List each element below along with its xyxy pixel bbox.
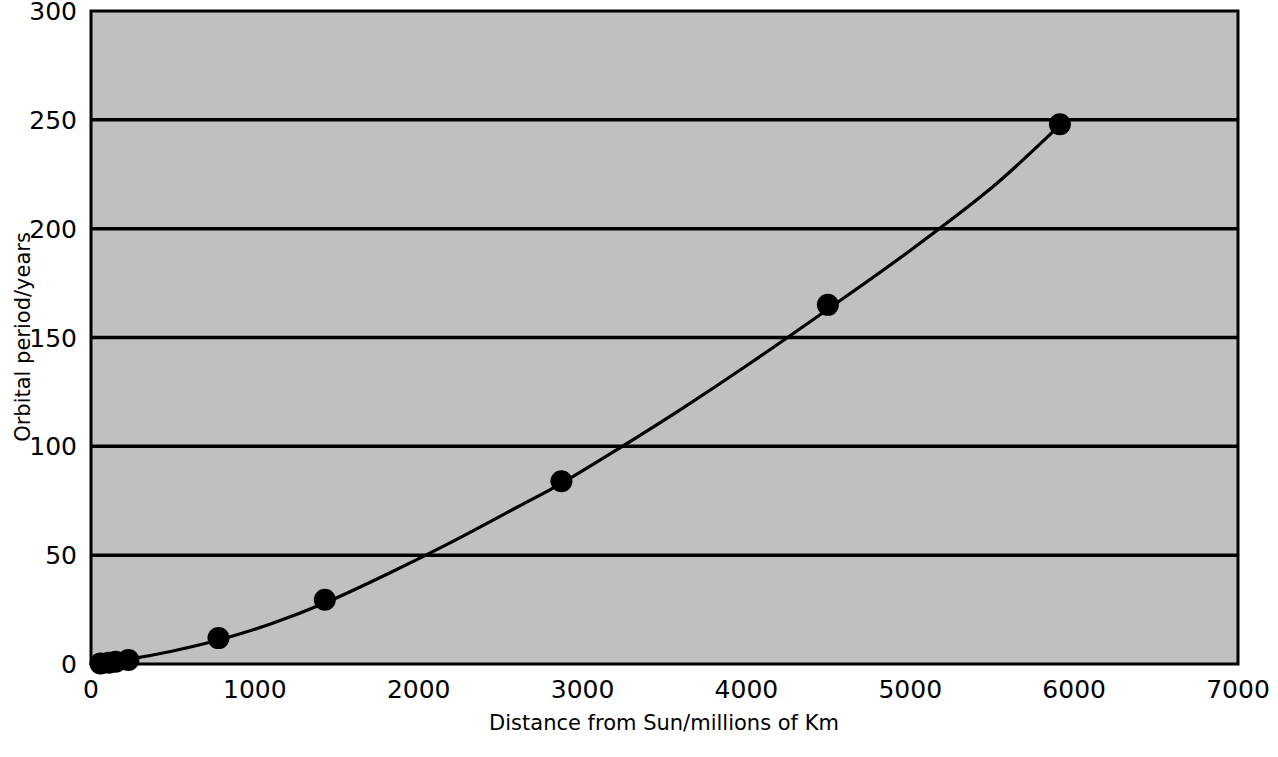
data-point-marker xyxy=(1049,113,1071,135)
x-tick-label-1000: 1000 xyxy=(223,675,287,704)
y-tick-label-50: 50 xyxy=(45,541,77,570)
orbital-period-scatter-chart: 050100150200250300 010002000300040005000… xyxy=(0,0,1278,757)
x-tick-label-3000: 3000 xyxy=(551,675,615,704)
data-point-marker xyxy=(207,627,229,649)
data-point-marker xyxy=(550,470,572,492)
data-point-marker xyxy=(117,649,139,671)
chart-container: 050100150200250300 010002000300040005000… xyxy=(0,0,1278,757)
y-tick-label-150: 150 xyxy=(29,324,77,353)
x-tick-label-4000: 4000 xyxy=(715,675,779,704)
x-tick-label-5000: 5000 xyxy=(878,675,942,704)
y-tick-label-200: 200 xyxy=(29,215,77,244)
x-tick-label-0: 0 xyxy=(83,675,99,704)
y-axis-title: Orbital period/years xyxy=(11,232,35,442)
x-tick-label-6000: 6000 xyxy=(1042,675,1106,704)
data-point-marker xyxy=(817,294,839,316)
y-tick-label-100: 100 xyxy=(29,432,77,461)
x-axis-title: Distance from Sun/millions of Km xyxy=(489,711,839,735)
y-tick-label-250: 250 xyxy=(29,106,77,135)
y-tick-label-300: 300 xyxy=(29,0,77,26)
y-tick-label-0: 0 xyxy=(61,650,77,679)
x-tick-label-2000: 2000 xyxy=(387,675,451,704)
x-tick-label-7000: 7000 xyxy=(1206,675,1270,704)
data-point-marker xyxy=(314,589,336,611)
